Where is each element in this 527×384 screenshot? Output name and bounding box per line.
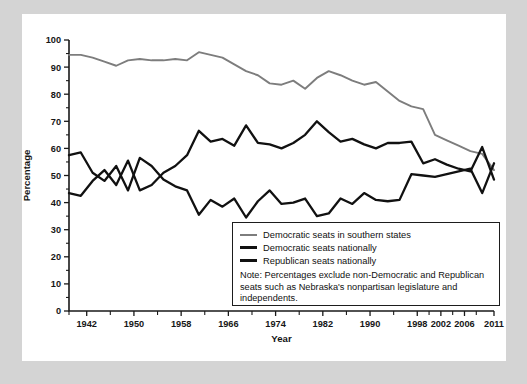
legend-label: Democratic seats nationally	[263, 243, 377, 253]
svg-text:2002: 2002	[431, 319, 451, 329]
plot-area: 0102030405060708090100194219501958196619…	[0, 0, 527, 384]
svg-text:20: 20	[51, 252, 61, 262]
svg-text:1998: 1998	[407, 319, 427, 329]
legend-swatch-black-icon	[240, 259, 257, 262]
svg-text:Year: Year	[271, 333, 292, 344]
chart-page: 0102030405060708090100194219501958196619…	[0, 0, 527, 384]
svg-text:1974: 1974	[265, 319, 286, 329]
svg-text:100: 100	[46, 35, 61, 45]
svg-text:80: 80	[51, 90, 61, 100]
svg-text:2011: 2011	[484, 319, 504, 329]
svg-text:70: 70	[51, 117, 61, 127]
svg-text:1990: 1990	[360, 319, 380, 329]
legend-label: Democratic seats in southern states	[263, 230, 411, 240]
svg-text:40: 40	[51, 198, 61, 208]
svg-text:Percentage: Percentage	[21, 150, 32, 202]
svg-text:90: 90	[51, 63, 61, 73]
svg-text:50: 50	[51, 171, 61, 181]
svg-text:30: 30	[51, 225, 61, 235]
legend-note: Note: Percentages exclude non-Democratic…	[240, 270, 492, 305]
legend-label: Republican seats nationally	[263, 256, 376, 266]
svg-text:1942: 1942	[76, 319, 96, 329]
svg-text:1966: 1966	[218, 319, 238, 329]
svg-text:60: 60	[51, 144, 61, 154]
svg-text:0: 0	[56, 306, 61, 316]
svg-text:2006: 2006	[454, 319, 474, 329]
legend-swatch-gray-icon	[240, 234, 257, 236]
svg-text:1950: 1950	[124, 319, 144, 329]
svg-text:10: 10	[51, 279, 61, 289]
line-chart: 0102030405060708090100194219501958196619…	[0, 0, 527, 384]
svg-text:1982: 1982	[313, 319, 333, 329]
legend-item-republican-national: Republican seats nationally	[240, 254, 492, 267]
legend-swatch-black-icon	[240, 246, 257, 249]
svg-text:1958: 1958	[171, 319, 191, 329]
legend-item-democratic-national: Democratic seats nationally	[240, 241, 492, 254]
chart-legend: Democratic seats in southern states Demo…	[232, 222, 500, 306]
legend-item-democratic-southern: Democratic seats in southern states	[240, 228, 492, 241]
